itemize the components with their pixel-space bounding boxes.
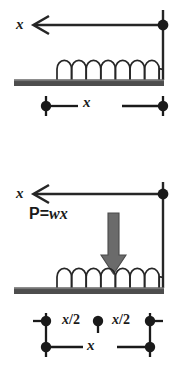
top-dimension-label-x: x xyxy=(83,95,91,110)
bottom-dimension-label-x: x xyxy=(87,338,95,353)
bottom-dimension xyxy=(33,313,163,357)
top-corner-node xyxy=(158,20,169,31)
force-arrow-down-icon xyxy=(101,213,126,274)
top-dimension xyxy=(41,96,168,116)
bottom-dimension-label-x-half-right: x/2 xyxy=(112,313,130,327)
bottom-corner-node xyxy=(158,189,169,200)
bottom-dim-node-upper-right xyxy=(145,316,155,326)
load-equation-label: P=wx xyxy=(29,206,68,222)
bottom-dim-node-upper-center xyxy=(93,316,103,326)
bottom-ground-bar-highlight xyxy=(14,288,164,290)
top-dim-node-right xyxy=(158,101,168,111)
bottom-arrow-label-x: x xyxy=(16,186,24,201)
spring-load-diagram xyxy=(0,0,195,383)
top-ground-bar-highlight xyxy=(14,80,164,82)
top-spring xyxy=(57,60,163,80)
bottom-dim-node-lower-left xyxy=(41,342,51,352)
x-half-right-variable: x xyxy=(112,312,119,327)
x-half-left-divisor: /2 xyxy=(69,312,80,327)
load-equation-equals: = xyxy=(40,205,49,222)
top-arrow-label-x: x xyxy=(16,17,24,32)
bottom-dim-node-lower-right xyxy=(145,342,155,352)
bottom-spring xyxy=(57,268,163,288)
top-dim-node-left xyxy=(41,101,51,111)
x-half-right-divisor: /2 xyxy=(119,312,130,327)
load-equation-P: P xyxy=(29,205,40,222)
top-figure xyxy=(14,10,168,116)
load-equation-wx: wx xyxy=(49,205,68,222)
x-half-left-variable: x xyxy=(62,312,69,327)
bottom-dimension-label-x-half-left: x/2 xyxy=(62,313,80,327)
bottom-dim-node-upper-left xyxy=(41,316,51,326)
